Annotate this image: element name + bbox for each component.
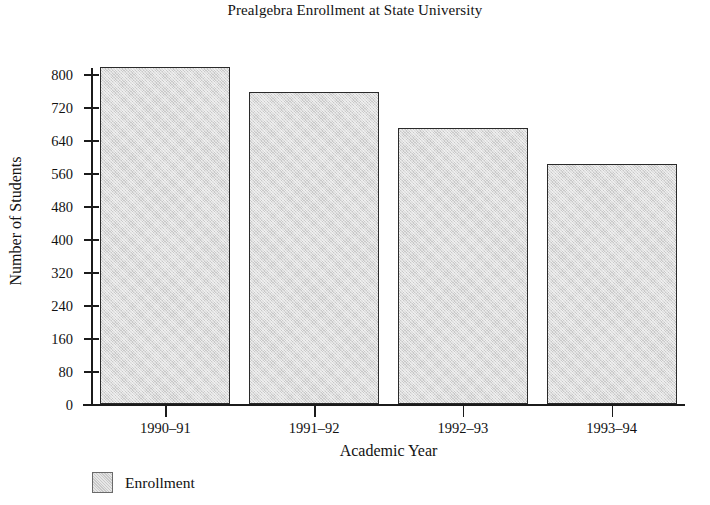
plot-area: 080160240320400480560640720800 1990–9119… — [91, 58, 686, 404]
y-tick-label: 160 — [51, 330, 73, 347]
x-tick-label: 1991–92 — [289, 420, 340, 437]
y-tick-label: 800 — [51, 67, 73, 84]
bar-1993–94 — [547, 164, 677, 404]
y-tick-label: 560 — [51, 166, 73, 183]
y-tick-560: 560 — [84, 173, 99, 175]
x-tick-1991–92 — [314, 404, 316, 417]
y-tick-720: 720 — [84, 107, 99, 109]
y-tick-160: 160 — [84, 338, 99, 340]
x-tick-label: 1990–91 — [140, 420, 191, 437]
y-tick-80: 80 — [84, 371, 99, 373]
y-axis-title: Number of Students — [7, 121, 25, 321]
chart-legend: Enrollment — [92, 472, 195, 493]
y-tick-640: 640 — [84, 140, 99, 142]
bar-1990–91 — [100, 67, 230, 404]
x-tick-1990–91 — [165, 404, 167, 417]
x-tick-label: 1993–94 — [586, 420, 637, 437]
chart-title: Prealgebra Enrollment at State Universit… — [0, 2, 710, 19]
legend-swatch-enrollment — [92, 472, 113, 493]
y-tick-label: 80 — [59, 363, 74, 380]
y-tick-400: 400 — [84, 239, 99, 241]
x-tick-1993–94 — [612, 404, 614, 417]
y-tick-label: 320 — [51, 264, 73, 281]
x-axis-title: Academic Year — [91, 442, 686, 460]
y-tick-800: 800 — [84, 74, 99, 76]
y-tick-label: 0 — [66, 396, 73, 413]
x-tick-1992–93 — [463, 404, 465, 417]
bar-chart: Prealgebra Enrollment at State Universit… — [0, 0, 710, 505]
y-tick-label: 400 — [51, 231, 73, 248]
legend-label-enrollment: Enrollment — [125, 474, 195, 492]
x-tick-label: 1992–93 — [438, 420, 489, 437]
bar-1991–92 — [249, 92, 379, 404]
y-tick-240: 240 — [84, 305, 99, 307]
y-tick-0: 0 — [84, 404, 99, 406]
y-tick-480: 480 — [84, 206, 99, 208]
y-tick-label: 640 — [51, 133, 73, 150]
y-tick-320: 320 — [84, 272, 99, 274]
y-tick-label: 480 — [51, 199, 73, 216]
y-tick-label: 720 — [51, 100, 73, 117]
y-axis-line — [91, 68, 93, 404]
x-axis-line — [83, 404, 685, 406]
y-tick-label: 240 — [51, 297, 73, 314]
bar-1992–93 — [398, 128, 528, 404]
